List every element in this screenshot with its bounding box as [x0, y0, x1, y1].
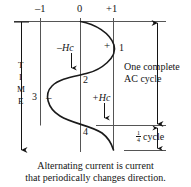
negative-hc-label: –Hc	[57, 43, 74, 53]
curve-point-label-3: 3	[32, 92, 37, 102]
caption-line-1: Alternating current is current	[0, 160, 191, 172]
curve-point-label-1: 1	[119, 43, 124, 53]
quarter-cycle-word: cycle	[143, 131, 164, 142]
quarter-cycle-label: 14cycle	[136, 131, 164, 144]
ac-cycle-diagram: –1 0 +1 T I M E 1 2 3 4 + – –Hc +Hc One …	[0, 0, 191, 187]
time-axis-letter-i: I	[19, 72, 22, 82]
positive-hc-label: +Hc	[92, 93, 110, 103]
quarter-fraction: 14	[136, 130, 141, 143]
time-axis-letter-t: T	[18, 60, 24, 70]
tick-label-minus-one: –1	[35, 4, 46, 15]
tick-label-zero: 0	[77, 4, 82, 15]
tick-label-plus-one: +1	[106, 4, 117, 15]
full-cycle-label-line2: AC cycle	[124, 74, 162, 84]
full-cycle-label-line1: One complete	[124, 62, 180, 72]
curve-point-label-4: 4	[83, 127, 88, 137]
time-axis-letter-e: E	[18, 96, 24, 106]
negative-lobe-sign: –	[46, 92, 52, 103]
quarter-fraction-denominator: 4	[136, 136, 141, 143]
time-axis-letter-m: M	[17, 84, 25, 94]
caption-line-2: that periodically changes direction.	[0, 172, 191, 184]
positive-lobe-sign: +	[104, 40, 110, 51]
curve-point-label-2: 2	[83, 75, 88, 85]
